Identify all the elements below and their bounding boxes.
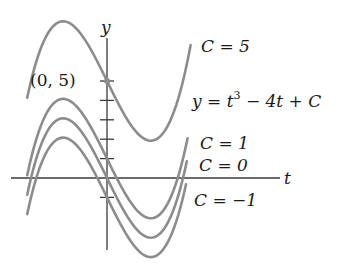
curve-label-c0: C = 0 <box>199 155 248 175</box>
equation-exponent: 3 <box>234 89 241 102</box>
curve-label-c5: C = 5 <box>201 36 250 56</box>
curve-label-cm1: C = −1 <box>194 190 257 210</box>
equation-prefix: y = t <box>191 91 234 111</box>
point-label: (0, 5) <box>30 70 76 90</box>
y-axis-label: y <box>100 17 111 37</box>
t-axis-label: t <box>284 168 291 188</box>
solution-curves-diagram: y t (0, 5) y = t3 − 4t + C C = 5 C = 1 C… <box>0 0 349 263</box>
point-0-5-marker <box>104 78 110 84</box>
equation-suffix: − 4t + C <box>241 91 322 111</box>
equation-label: y = t3 − 4t + C <box>191 89 321 111</box>
curve-label-c1: C = 1 <box>200 133 249 153</box>
